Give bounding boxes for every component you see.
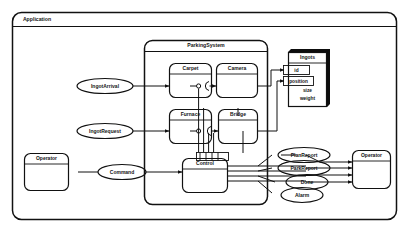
class-attr-size: size: [303, 88, 312, 93]
class-attr-id: id: [294, 68, 298, 73]
component-camera-label: Camera: [228, 65, 247, 71]
class-ingots-name: Ingots: [300, 54, 315, 60]
class-attr-weight: weight: [299, 96, 316, 101]
link-bridge-ingots-position: [277, 81, 284, 131]
signal-alarm-label: Alarm: [295, 192, 310, 198]
signal-ingotarrival-label: IngotArrival: [91, 83, 120, 89]
component-furnace-label: Furnace: [181, 111, 201, 117]
required-interface-socket-lower: [207, 127, 211, 136]
component-control[interactable]: Control: [183, 153, 229, 193]
component-carpet[interactable]: Carpet: [170, 64, 212, 98]
parkingsystem-package: ParkingSystem: [145, 41, 268, 205]
required-interface-socket-upper: [205, 82, 209, 91]
component-carpet-label: Carpet: [183, 65, 199, 71]
diagram-canvas: Application ParkingSystem: [0, 0, 409, 232]
actor-operator-right-label: Operator: [361, 152, 382, 158]
signal-ingotrequest[interactable]: IngotRequest: [77, 124, 133, 139]
actor-operator-left[interactable]: Operator: [25, 154, 69, 191]
class-attr-position: position: [289, 79, 308, 84]
component-bridge-label: Bridge: [230, 111, 246, 117]
signal-command[interactable]: Command: [98, 165, 146, 180]
provided-interface-ball-carpet: [197, 84, 201, 88]
signal-ingotrequest-label: IngotRequest: [89, 128, 121, 134]
component-control-label: Control: [196, 160, 214, 166]
diagram-svg: Application ParkingSystem: [0, 0, 409, 232]
actor-operator-right[interactable]: Operator: [353, 151, 391, 189]
signal-command-label: Command: [110, 169, 134, 175]
control-ports: [200, 153, 218, 161]
fan-alarm: [258, 181, 272, 193]
parkingsystem-label: ParkingSystem: [187, 42, 225, 48]
component-bridge[interactable]: Bridge: [219, 110, 258, 144]
component-camera[interactable]: Camera: [217, 64, 258, 98]
actor-operator-left-label: Operator: [36, 155, 57, 161]
component-furnace[interactable]: Furnace: [170, 110, 212, 144]
signal-ingotarrival[interactable]: IngotArrival: [77, 79, 133, 94]
signal-planreport-label: PlanReport: [291, 152, 318, 158]
application-frame-label: Application: [23, 16, 51, 22]
parkingsystem-box: [145, 41, 268, 205]
signal-done-label: Done: [301, 179, 314, 185]
signal-parkreport-label: ParkReport: [291, 165, 318, 171]
class-ingots[interactable]: Ingots id position size weight: [284, 49, 331, 107]
fan-planreport: [258, 155, 272, 166]
